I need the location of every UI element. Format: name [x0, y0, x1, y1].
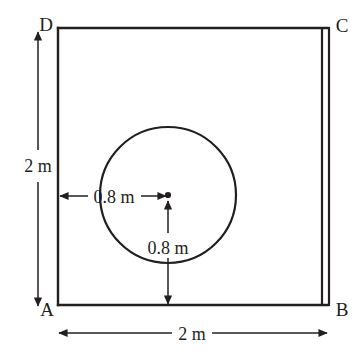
dimension-bottom-2m: 2 m: [59, 324, 327, 344]
vertex-label-a: A: [40, 299, 54, 320]
dimension-horizontal-0-8m-label: 0.8 m: [93, 187, 134, 207]
figure-svg: 2 m 2 m 0.8 m 0.8 m D C A B: [0, 0, 363, 355]
circle-center-dot: [165, 192, 171, 198]
vertex-label-c: C: [336, 15, 349, 36]
diagram-canvas: 2 m 2 m 0.8 m 0.8 m D C A B: [0, 0, 363, 355]
dimension-vertical-0-8m-label: 0.8 m: [147, 238, 188, 258]
dimension-left-2m: 2 m: [24, 32, 52, 306]
dimension-vertical-0-8m: 0.8 m: [147, 201, 188, 304]
square-abcd: [58, 28, 329, 305]
dimension-bottom-2m-label: 2 m: [178, 324, 206, 344]
vertex-label-b: B: [336, 299, 349, 320]
vertex-label-d: D: [39, 14, 53, 35]
dimension-horizontal-0-8m: 0.8 m: [60, 187, 166, 207]
dimension-left-2m-label: 2 m: [24, 156, 52, 176]
